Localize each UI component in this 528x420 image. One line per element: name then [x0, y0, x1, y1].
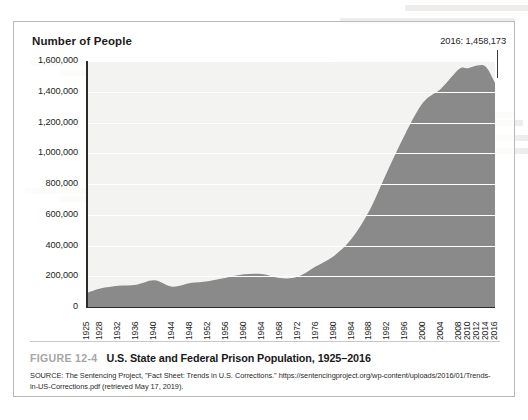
- y-axis-tick-labels: 0200,000400,000600,000800,0001,000,0001,…: [14, 22, 83, 341]
- gridline: [87, 215, 495, 216]
- gridline: [87, 92, 495, 93]
- gridline: [87, 123, 495, 124]
- x-tick-label: 1925: [81, 322, 91, 340]
- y-tick-label: 1,200,000: [38, 117, 78, 127]
- x-tick-label: 1944: [166, 322, 176, 340]
- caption-divider: [30, 341, 500, 342]
- x-tick-label: 1936: [130, 322, 140, 340]
- y-tick-label: 600,000: [45, 209, 78, 219]
- x-tick-label: 1980: [328, 322, 338, 340]
- figure-caption-block: FIGURE 12-4 U.S. State and Federal Priso…: [14, 341, 514, 396]
- x-tick-label: 1972: [292, 322, 302, 340]
- endpoint-annotation-label: 2016: 1,458,173: [440, 36, 506, 46]
- gridline: [87, 153, 495, 154]
- gridline: [87, 61, 495, 62]
- gridline: [87, 184, 495, 185]
- y-tick-label: 1,400,000: [38, 86, 78, 96]
- x-tick-label: 1948: [184, 322, 194, 340]
- gridline: [87, 246, 495, 247]
- x-tick-label: 1996: [399, 322, 409, 340]
- x-axis-tick-labels: 1925192819321936194019441948195219561960…: [87, 310, 495, 342]
- x-tick-label: 1976: [310, 322, 320, 340]
- y-tick-label: 1,000,000: [38, 147, 78, 157]
- x-axis-line: [87, 307, 495, 308]
- y-tick-label: 400,000: [45, 240, 78, 250]
- x-tick-label: 2016: [489, 322, 499, 340]
- figure-container: Number of People 2016: 1,458,173 0200,00…: [13, 21, 515, 397]
- x-tick-label: 1940: [148, 322, 158, 340]
- figure-title-label: U.S. State and Federal Prison Population…: [106, 352, 370, 364]
- area-series-path: [87, 65, 495, 307]
- endpoint-annotation-leader-line: [497, 50, 498, 78]
- x-tick-label: 1964: [256, 322, 266, 340]
- x-tick-label: 2004: [435, 322, 445, 340]
- x-tick-label: 1992: [381, 322, 391, 340]
- x-tick-label: 1984: [346, 322, 356, 340]
- x-tick-label: 1956: [220, 322, 230, 340]
- x-tick-label: 1960: [238, 322, 248, 340]
- x-tick-label: 1952: [202, 322, 212, 340]
- x-tick-label: 1968: [274, 322, 284, 340]
- y-axis-line: [86, 61, 88, 308]
- y-tick-label: 200,000: [45, 270, 78, 280]
- figure-source-note: SOURCE: The Sentencing Project, "Fact Sh…: [30, 371, 498, 392]
- x-tick-label: 1932: [112, 322, 122, 340]
- background-text-bleed: [405, 5, 528, 11]
- x-tick-label: 1988: [363, 322, 373, 340]
- x-tick-label: 1928: [94, 322, 104, 340]
- figure-caption-line: FIGURE 12-4 U.S. State and Federal Priso…: [30, 352, 500, 364]
- y-tick-label: 1,600,000: [38, 55, 78, 65]
- x-tick-label: 2000: [417, 322, 427, 340]
- plot-area: [87, 61, 495, 307]
- gridline: [87, 276, 495, 277]
- y-tick-label: 800,000: [45, 178, 78, 188]
- y-tick-label: 0: [73, 301, 78, 311]
- figure-number-label: FIGURE 12-4: [30, 352, 97, 364]
- chart-region: Number of People 2016: 1,458,173 0200,00…: [14, 22, 514, 341]
